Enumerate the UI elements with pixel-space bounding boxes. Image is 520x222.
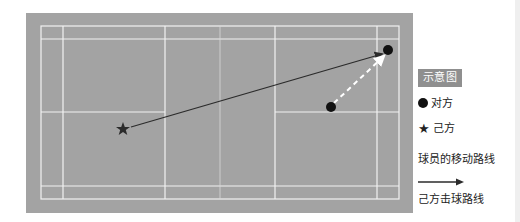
legend-shot-label: 己方击球路线 <box>418 193 484 206</box>
legend-movement: 球员的移动路线 <box>418 153 495 167</box>
legend-self: ★己方 <box>418 122 455 136</box>
arrow-icon <box>418 177 468 187</box>
circle-icon <box>418 98 428 108</box>
legend-shot: 己方击球路线 <box>418 193 484 207</box>
page-edge <box>515 0 520 222</box>
legend-opponent-label: 对方 <box>431 97 453 110</box>
opponent-end-marker <box>383 45 393 55</box>
star-icon: ★ <box>418 122 430 136</box>
legend-movement-label: 球员的移动路线 <box>418 153 495 166</box>
legend-opponent: 对方 <box>418 97 453 111</box>
legend-self-label: 己方 <box>433 122 455 135</box>
court-surface <box>26 13 413 213</box>
legend-title: 示意图 <box>418 69 462 87</box>
legend: 示意图 对方 ★己方 球员的移动路线 己方击球路线 <box>418 0 518 222</box>
opponent-start-marker <box>326 102 336 112</box>
